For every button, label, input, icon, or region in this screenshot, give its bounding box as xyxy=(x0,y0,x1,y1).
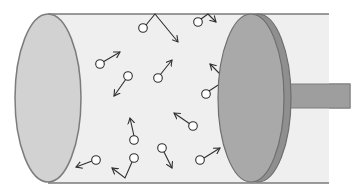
cylinder-piston-diagram xyxy=(0,0,364,191)
molecule-circle-icon xyxy=(194,18,203,27)
diagram-canvas xyxy=(0,0,364,191)
molecule-circle-icon xyxy=(92,156,101,165)
piston-rod-visible xyxy=(283,84,350,108)
molecule-circle-icon xyxy=(154,74,163,83)
molecule-circle-icon xyxy=(189,122,198,131)
molecule-circle-icon xyxy=(96,60,105,69)
molecule-circle-icon xyxy=(130,136,139,145)
molecule-circle-icon xyxy=(124,72,133,81)
cylinder-end-cap xyxy=(15,14,81,182)
molecule-circle-icon xyxy=(196,156,205,165)
molecule-circle-icon xyxy=(139,24,148,33)
molecule-circle-icon xyxy=(130,154,139,163)
molecule-circle-icon xyxy=(158,144,167,153)
piston-face[interactable] xyxy=(218,14,284,182)
molecule-circle-icon xyxy=(202,90,211,99)
